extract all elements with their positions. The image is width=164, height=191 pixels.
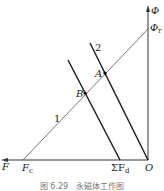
point-b	[83, 91, 86, 94]
point-a	[103, 71, 106, 74]
y-axis-arrow-icon	[146, 5, 150, 12]
y-axis-label: Φ	[151, 6, 159, 16]
origin-label: O	[145, 163, 153, 173]
x-axis-label: F	[2, 162, 9, 172]
line-2	[90, 43, 148, 160]
line-2-label: 2	[95, 43, 101, 53]
point-a-label: A	[95, 69, 102, 79]
phi-r-label: Φr	[150, 23, 162, 35]
figure-caption: 图 6.29 永磁体工作图	[0, 180, 164, 191]
point-b-label: B	[76, 89, 83, 99]
fc-label: Fc	[22, 163, 33, 175]
load-line	[68, 60, 120, 160]
line-1-label: 1	[54, 114, 60, 124]
sum-fd-label: ΣFd	[111, 163, 130, 175]
